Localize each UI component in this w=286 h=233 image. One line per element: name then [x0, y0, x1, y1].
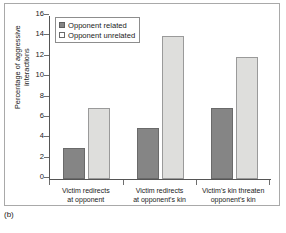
figure-caption: (b) [4, 210, 14, 220]
x-category-label-line: Victim's kin threaten [202, 187, 264, 194]
legend-label-related: Opponent related [68, 21, 127, 30]
bar-unrelated[interactable] [162, 36, 184, 179]
bar-unrelated[interactable] [236, 57, 258, 179]
x-tick-mark [196, 180, 197, 185]
legend-swatch-icon-related [59, 22, 65, 28]
x-tick-mark [123, 180, 124, 185]
legend-item-opponent-unrelated: Opponent unrelated [59, 30, 135, 40]
bar-related[interactable] [211, 108, 233, 179]
bar-unrelated[interactable] [88, 108, 110, 179]
bar-related[interactable] [63, 148, 85, 179]
legend-label-unrelated: Opponent unrelated [68, 31, 135, 40]
y-tick-label: 10 [36, 71, 44, 79]
y-tick-mark [44, 14, 49, 15]
figure-panel-b: Percentage of aggressive interactions 02… [0, 0, 286, 233]
bar-related[interactable] [137, 128, 159, 179]
x-axis-category-labels: Victim redirectsat opponentVictim redire… [49, 186, 275, 210]
x-category-label: Victim redirectsat opponent [46, 186, 126, 204]
x-category-label-line: opponent's kin [211, 196, 256, 203]
x-axis-tick-marks [49, 180, 271, 185]
chart-legend: Opponent related Opponent unrelated [55, 17, 140, 43]
bar-group [211, 16, 258, 179]
x-category-label-line: at opponent's kin [133, 196, 186, 203]
y-tick-label: 12 [36, 51, 44, 59]
y-tick-label: 16 [36, 10, 44, 18]
y-axis-label: Percentage of aggressive interactions [13, 0, 31, 137]
legend-swatch-icon-unrelated [59, 32, 65, 38]
x-tick-mark [49, 180, 50, 185]
x-category-label-line: at opponent [67, 196, 104, 203]
legend-item-opponent-related: Opponent related [59, 20, 135, 30]
x-category-label: Victim redirectsat opponent's kin [120, 186, 200, 204]
x-category-label: Victim's kin threatenopponent's kin [193, 186, 273, 204]
x-tick-mark [269, 180, 270, 185]
y-axis-label-line1: Percentage of aggressive [13, 25, 22, 109]
y-axis-tick-labels: 0246810121416 [30, 14, 44, 180]
bar-group [137, 16, 184, 179]
x-category-label-line: Victim redirects [136, 187, 184, 194]
y-tick-label: 14 [36, 31, 44, 39]
x-category-label-line: Victim redirects [62, 187, 110, 194]
